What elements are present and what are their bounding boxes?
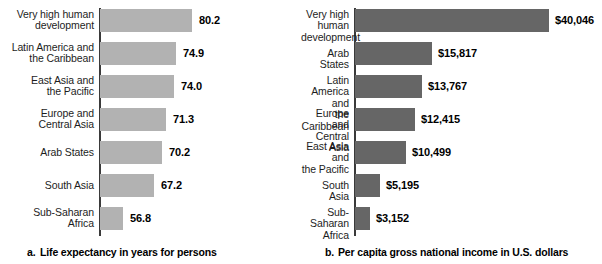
- bar-value-label: $12,415: [421, 113, 460, 125]
- category-label: Sub-Saharan Africa: [0, 207, 94, 230]
- plot-area-a: Very high human development80.2Latin Ame…: [0, 0, 301, 243]
- bar: [100, 141, 162, 164]
- bar: [100, 42, 176, 65]
- bar-value-label: 67.2: [161, 179, 182, 191]
- bar-row: Arab States$15,817: [301, 42, 602, 65]
- bar: [355, 75, 422, 98]
- plot-area-b: Very high human development$40,046Arab S…: [301, 0, 602, 243]
- bar-value-label: $13,767: [428, 80, 467, 92]
- category-label: East Asia and the Pacific: [0, 75, 94, 98]
- caption-tag-b: b.: [325, 246, 338, 258]
- bar-row: South Asia67.2: [0, 174, 301, 197]
- bar-value-label: 70.2: [169, 146, 190, 158]
- bar-row: South Asia$5,195: [301, 174, 602, 197]
- bar: [100, 75, 174, 98]
- two-panel-bar-figure: Very high human development80.2Latin Ame…: [0, 0, 602, 264]
- bar: [355, 9, 549, 32]
- bar-value-label: $5,195: [386, 179, 419, 191]
- bar-row: Very high human development80.2: [0, 9, 301, 32]
- bar-row: Sub-Saharan Africa56.8: [0, 207, 301, 230]
- bar-row: Arab States70.2: [0, 141, 301, 164]
- bar-row: Very high human development$40,046: [301, 9, 602, 32]
- bar-value-label: 80.2: [199, 14, 220, 26]
- bar-value-label: $10,499: [412, 146, 451, 158]
- bar-value-label: $3,152: [376, 212, 409, 224]
- bar: [100, 174, 154, 197]
- bar-row: Latin America and the Caribbean$13,767: [301, 75, 602, 98]
- bar: [355, 174, 380, 197]
- bar-value-label: $15,817: [438, 47, 477, 59]
- chart-panel-a: Very high human development80.2Latin Ame…: [0, 0, 301, 264]
- bar: [100, 9, 192, 32]
- bar-row: Europe and Central Asia$12,415: [301, 108, 602, 131]
- bar: [100, 108, 166, 131]
- bar-value-label: $40,046: [555, 14, 594, 26]
- chart-panel-b: Very high human development$40,046Arab S…: [301, 0, 602, 264]
- bar: [355, 141, 406, 164]
- category-label: Very high human development: [301, 9, 349, 44]
- category-label: Very high human development: [0, 9, 94, 32]
- bar: [100, 207, 123, 230]
- panel-caption-b: b.Per capita gross national income in U.…: [301, 246, 602, 258]
- bar-value-label: 74.0: [181, 80, 202, 92]
- category-label: Sub-Saharan Africa: [301, 207, 349, 242]
- bar-row: East Asia and the Pacific74.0: [0, 75, 301, 98]
- category-label: South Asia: [0, 180, 94, 192]
- bar: [355, 42, 432, 65]
- category-label: Arab States: [301, 48, 349, 71]
- bar-row: Sub-Saharan Africa$3,152: [301, 207, 602, 230]
- bar-row: Europe and Central Asia71.3: [0, 108, 301, 131]
- bar-row: East Asia and the Pacific$10,499: [301, 141, 602, 164]
- bar-value-label: 71.3: [173, 113, 194, 125]
- bar: [355, 207, 370, 230]
- bar-value-label: 74.9: [183, 47, 204, 59]
- category-label: Latin America and the Caribbean: [0, 42, 94, 65]
- category-label: Arab States: [0, 147, 94, 159]
- category-label: South Asia: [301, 180, 349, 203]
- caption-text-b: Per capita gross national income in U.S.…: [338, 246, 568, 258]
- bar-row: Latin America and the Caribbean74.9: [0, 42, 301, 65]
- caption-text-a: Life expectancy in years for persons: [40, 246, 217, 258]
- caption-tag-a: a.: [27, 246, 40, 258]
- category-label: East Asia and the Pacific: [301, 141, 349, 176]
- bar-value-label: 56.8: [130, 212, 151, 224]
- category-label: Europe and Central Asia: [0, 108, 94, 131]
- bar: [355, 108, 415, 131]
- panel-caption-a: a.Life expectancy in years for persons: [0, 246, 328, 258]
